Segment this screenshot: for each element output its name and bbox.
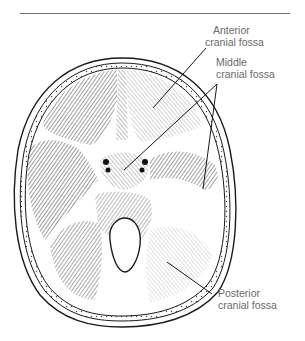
label-anterior-cranial-fossa: Anterior cranial fossa	[205, 24, 264, 48]
label-line-2: cranial fossa	[218, 299, 277, 311]
label-line-2: cranial fossa	[205, 36, 264, 48]
label-middle-cranial-fossa: Middle cranial fossa	[216, 56, 275, 80]
label-line-2: cranial fossa	[216, 68, 275, 80]
label-line-1: Middle	[216, 56, 275, 68]
label-line-1: Posterior	[218, 287, 277, 299]
label-posterior-cranial-fossa: Posterior cranial fossa	[218, 287, 277, 311]
label-line-1: Anterior	[205, 24, 264, 36]
